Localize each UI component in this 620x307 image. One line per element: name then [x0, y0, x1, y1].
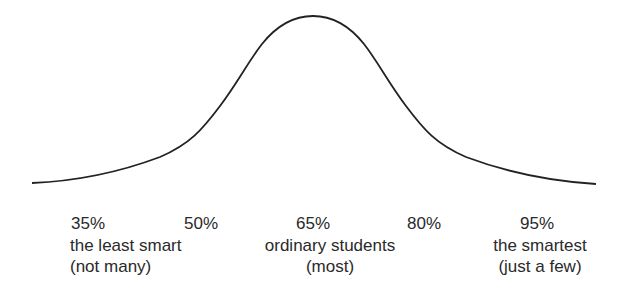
tick-65: 65%: [296, 213, 330, 234]
group-high-name: the smartest: [470, 235, 610, 256]
tick-80: 80%: [407, 213, 441, 234]
bell-curve-line: [32, 16, 596, 184]
tick-50: 50%: [184, 213, 218, 234]
tick-95: 95%: [520, 213, 554, 234]
group-low-name: the least smart: [70, 235, 182, 256]
tick-35: 35%: [71, 213, 105, 234]
group-high-label: the smartest (just a few): [470, 235, 610, 277]
group-mid-note: (most): [248, 256, 412, 277]
bell-curve-plot: [0, 0, 620, 210]
group-mid-name: ordinary students: [248, 235, 412, 256]
group-low-note: (not many): [70, 256, 182, 277]
group-high-note: (just a few): [470, 256, 610, 277]
group-mid-label: ordinary students (most): [248, 235, 412, 277]
group-low-label: the least smart (not many): [70, 235, 182, 277]
